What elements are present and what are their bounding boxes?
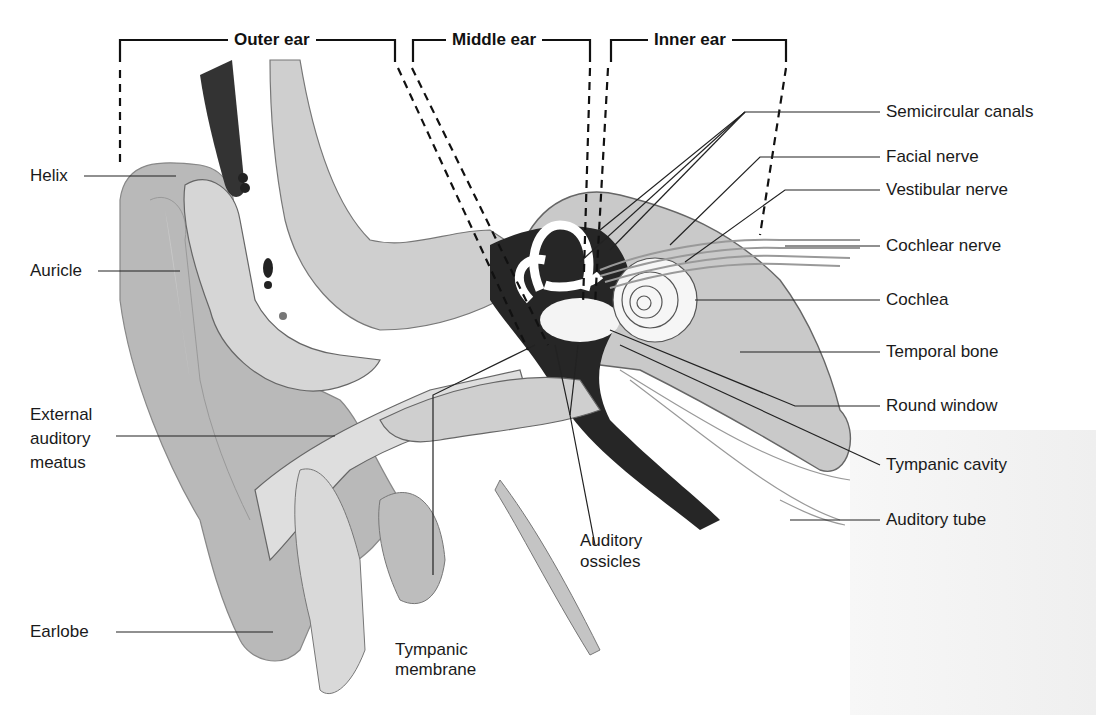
temporal-bone-upper: [270, 60, 520, 330]
label-auditory-tube: Auditory tube: [886, 510, 986, 530]
label-cochlea: Cochlea: [886, 290, 948, 310]
label-cochlear-nerve: Cochlear nerve: [886, 236, 1001, 256]
section-outer-ear: Outer ear: [228, 30, 316, 50]
label-earlobe: Earlobe: [30, 622, 89, 642]
label-facial-nerve: Facial nerve: [886, 147, 979, 167]
label-vestibular-nerve: Vestibular nerve: [886, 180, 1008, 200]
label-helix: Helix: [30, 166, 68, 186]
label-tympanic-cavity: Tympanic cavity: [886, 455, 1007, 475]
section-inner-ear: Inner ear: [648, 30, 732, 50]
label-auricle: Auricle: [30, 261, 82, 281]
label-semicircular-canals: Semicircular canals: [886, 102, 1033, 122]
label-external-auditory-meatus: External auditory meatus: [30, 403, 92, 475]
label-tympanic-membrane: Tympanic membrane: [395, 640, 476, 680]
label-auditory-ossicles: Auditory ossicles: [580, 530, 642, 572]
label-round-window: Round window: [886, 396, 998, 416]
section-middle-ear: Middle ear: [446, 30, 542, 50]
label-temporal-bone: Temporal bone: [886, 342, 998, 362]
